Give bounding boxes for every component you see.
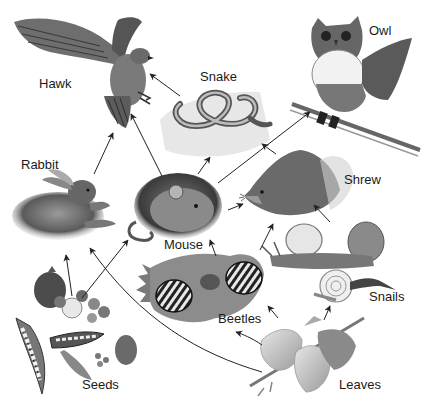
arrow-mouse-to-hawk bbox=[131, 114, 162, 176]
shrew-illustration bbox=[239, 150, 354, 215]
rabbit-illustration bbox=[12, 169, 116, 240]
arrow-mouse-to-snake bbox=[198, 157, 210, 174]
hawk-illustration bbox=[14, 17, 154, 128]
label-mouse: Mouse bbox=[164, 238, 203, 251]
arrow-rabbit-to-hawk bbox=[94, 133, 113, 174]
label-owl: Owl bbox=[369, 24, 391, 37]
arrow-seeds-to-rabbit bbox=[66, 255, 72, 296]
label-hawk: Hawk bbox=[39, 77, 72, 90]
arrow-snake-to-hawk bbox=[150, 74, 180, 96]
label-seeds: Seeds bbox=[82, 378, 119, 391]
arrow-mouse-to-shrew bbox=[228, 204, 243, 210]
seeds-illustration bbox=[16, 266, 137, 394]
snake-illustration bbox=[160, 92, 270, 157]
food-web-illustration bbox=[0, 0, 425, 412]
arrow-beetles-to-shrew bbox=[260, 224, 273, 250]
label-shrew: Shrew bbox=[344, 173, 381, 186]
arrow-beetles-to-mouse bbox=[210, 240, 216, 256]
arrow-shrew-to-snake bbox=[262, 144, 276, 154]
owl-illustration bbox=[290, 16, 420, 156]
label-rabbit: Rabbit bbox=[21, 158, 59, 171]
arrow-leaves-to-snails bbox=[324, 306, 330, 320]
label-snails: Snails bbox=[369, 290, 404, 303]
label-beetles: Beetles bbox=[218, 312, 261, 325]
label-snake: Snake bbox=[200, 70, 237, 83]
label-leaves: Leaves bbox=[339, 378, 381, 391]
arrow-leaves-to-snails-beetles bbox=[268, 306, 278, 318]
arrow-leaves-to-beetles bbox=[236, 332, 262, 345]
arrow-seeds-to-mouse bbox=[82, 240, 128, 298]
food-web-diagram: Hawk Snake Owl Rabbit Mouse Shrew Beetle… bbox=[0, 0, 425, 412]
mouse-illustration bbox=[129, 173, 222, 240]
